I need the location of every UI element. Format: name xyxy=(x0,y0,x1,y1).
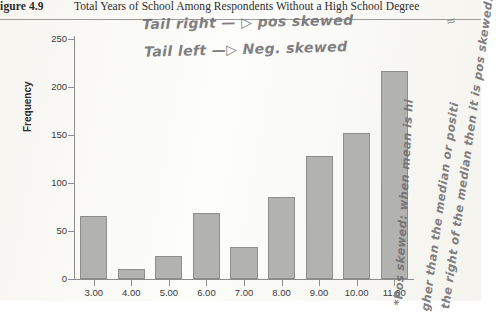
y-axis-tick xyxy=(68,279,75,280)
x-axis-tick xyxy=(244,280,245,286)
y-axis-tick-label: 100 xyxy=(27,177,67,188)
bar xyxy=(268,197,295,279)
y-axis-line xyxy=(74,36,75,280)
y-axis-tick xyxy=(68,183,75,184)
y-axis-tick-label: 250 xyxy=(27,33,67,44)
x-axis-tick xyxy=(357,280,358,286)
bar xyxy=(118,269,145,279)
y-axis-tick-label: 200 xyxy=(27,81,67,92)
y-axis-tick-label: 150 xyxy=(27,129,67,140)
x-axis-tick xyxy=(282,280,283,286)
bar xyxy=(155,256,182,279)
x-axis-tick xyxy=(206,280,207,286)
y-axis-tick xyxy=(68,135,75,136)
y-axis-tick xyxy=(68,231,75,232)
x-axis-tick xyxy=(131,280,132,286)
bar xyxy=(193,213,220,279)
x-axis-tick xyxy=(319,280,320,286)
x-axis-tick xyxy=(94,280,95,286)
y-axis-tick-label: 50 xyxy=(27,225,67,236)
x-axis-tick xyxy=(169,280,170,286)
bar xyxy=(80,216,107,279)
bar xyxy=(306,156,333,279)
y-axis-tick-label: 0 xyxy=(27,273,67,284)
y-axis-tick xyxy=(68,39,75,40)
bar xyxy=(230,247,257,279)
bar xyxy=(343,133,370,279)
y-axis-tick xyxy=(68,87,75,88)
